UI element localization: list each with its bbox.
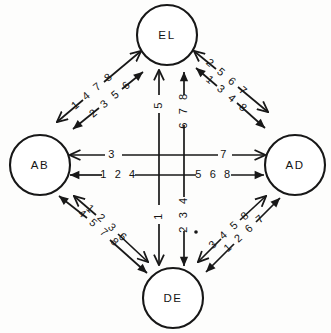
edge-label-3: 3 [108, 148, 117, 160]
edge-label-234: 2 3 4 [177, 195, 189, 232]
edge-label-124: 1 2 4 [100, 168, 137, 180]
edge-label-7: 7 [220, 148, 229, 160]
node-label-de: DE [163, 292, 182, 304]
node-label-ad: AD [285, 159, 304, 171]
edge-vertical-left[interactable]: 5 1 [152, 70, 164, 265]
edge-label-5: 5 [152, 99, 164, 108]
graph-diagram: EL AB AD DE 1 4 7 8 2 3 5 6 2 5 6 7 [0, 0, 331, 333]
edge-label-678: 6 7 8 [177, 91, 189, 128]
edge-label-568: 5 6 8 [195, 168, 232, 180]
edge-label-1: 1 [152, 210, 164, 219]
stray-dot-mark [194, 230, 198, 234]
edge-horizontal-lower[interactable]: 1 2 4 5 6 8 [70, 168, 264, 180]
edge-horizontal-upper[interactable]: 3 7 [70, 148, 265, 160]
edge-vertical-right[interactable]: 6 7 8 2 3 4 [177, 72, 189, 266]
node-label-ab: AB [31, 159, 50, 171]
edge-lower-left-inner[interactable]: 1 2 3 6 [74, 196, 148, 262]
edge-lower-left-outer[interactable]: 4 5 7 8 [59, 196, 147, 273]
node-label-el: EL [158, 29, 175, 41]
node-group: EL AB AD DE [10, 5, 325, 328]
diagram-canvas: EL AB AD DE 1 4 7 8 2 3 5 6 2 5 6 7 [0, 0, 331, 333]
